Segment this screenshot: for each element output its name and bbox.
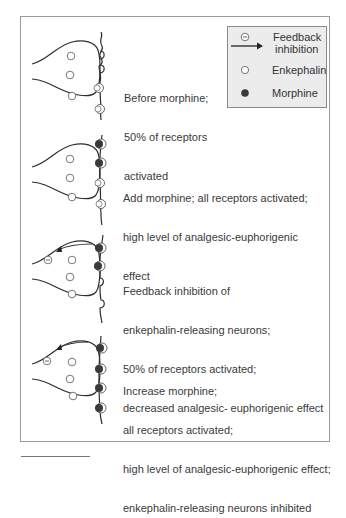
caption-line: enkephalin-releasing neurons; bbox=[123, 324, 323, 337]
receptor-with-morphine bbox=[96, 344, 104, 352]
enkephalin-vesicle bbox=[68, 256, 76, 264]
caption-line: Feedback inhibition of bbox=[123, 285, 323, 298]
enkephalin-icon bbox=[241, 66, 248, 73]
presynaptic-terminal bbox=[32, 144, 100, 199]
arrowhead-icon bbox=[257, 43, 263, 50]
panel-4-synapse bbox=[32, 336, 107, 424]
legend-label-enkephalin: Enkephalin bbox=[272, 64, 326, 76]
caption-line: high level of analgesic-euphorigenic bbox=[123, 231, 308, 244]
legend: Feedback inhibition Enkephalin Morphine bbox=[227, 26, 327, 108]
feedback-arrow bbox=[58, 342, 88, 348]
caption-line: enkephalin-releasing neurons inhibited bbox=[123, 502, 331, 515]
receptor-with-morphine bbox=[95, 404, 103, 412]
enkephalin-vesicle bbox=[66, 174, 74, 182]
feedback-arrow bbox=[58, 244, 92, 250]
footnote-rule bbox=[21, 456, 90, 457]
panel-4-caption: Increase morphine; all receptors activat… bbox=[123, 359, 331, 518]
enkephalin-vesicle bbox=[68, 358, 76, 366]
caption-line: Add morphine; all receptors activated; bbox=[123, 192, 308, 205]
arrowhead-icon bbox=[56, 344, 62, 350]
presynaptic-terminal bbox=[32, 241, 100, 296]
legend-label-inhibition: inhibition bbox=[275, 43, 318, 55]
legend-label-morphine: Morphine bbox=[272, 87, 318, 99]
enkephalin-vesicle bbox=[66, 273, 74, 281]
enkephalin-vesicle bbox=[66, 375, 74, 383]
presynaptic-terminal bbox=[32, 41, 100, 96]
enkephalin-vesicle bbox=[66, 155, 74, 163]
receptor-with-morphine bbox=[95, 159, 103, 167]
receptor-with-morphine bbox=[94, 262, 102, 270]
enkephalin-vesicle bbox=[68, 290, 76, 298]
panel-2-synapse bbox=[32, 135, 106, 225]
caption-line: Before morphine; bbox=[124, 92, 208, 105]
enkephalin-vesicle bbox=[66, 71, 74, 79]
presynaptic-terminal bbox=[32, 341, 100, 396]
caption-line: Increase morphine; bbox=[123, 385, 331, 398]
enkephalin-vesicle bbox=[68, 193, 76, 201]
enkephalin-vesicle bbox=[69, 392, 77, 400]
caption-line: high level of analgesic-euphorigenic eff… bbox=[123, 463, 331, 476]
panel-1-synapse bbox=[32, 32, 105, 120]
legend-label-feedback: Feedback bbox=[273, 31, 321, 43]
receptor-with-morphine bbox=[95, 365, 103, 373]
morphine-icon bbox=[241, 89, 249, 97]
panel-3-synapse bbox=[32, 235, 106, 323]
receptor-with-morphine bbox=[95, 384, 103, 392]
receptor-with-morphine bbox=[95, 140, 103, 148]
enkephalin-vesicle bbox=[68, 92, 76, 100]
caption-line: 50% of receptors bbox=[124, 131, 208, 144]
enkephalin-vesicle bbox=[67, 52, 75, 60]
receptor-with-morphine bbox=[95, 244, 103, 252]
caption-line: all receptors activated; bbox=[123, 424, 331, 437]
